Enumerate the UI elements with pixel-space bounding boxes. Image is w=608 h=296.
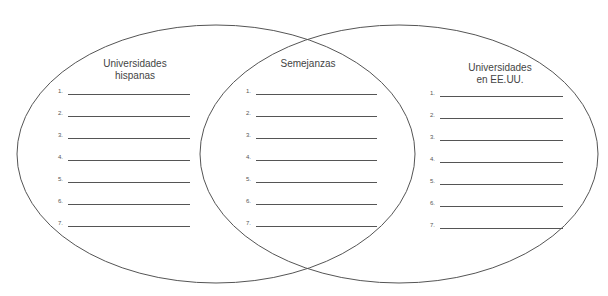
- left-blank-4[interactable]: 4.: [58, 151, 190, 161]
- right-blank-6[interactable]: 6.: [430, 197, 563, 207]
- venn-diagram: [0, 0, 608, 296]
- right-blank-4[interactable]: 4.: [430, 153, 563, 163]
- left-blank-6[interactable]: 6.: [58, 195, 190, 205]
- left-blank-2[interactable]: 2.: [58, 107, 190, 117]
- center-blank-7[interactable]: 7.: [246, 217, 377, 227]
- center-blank-1[interactable]: 1.: [246, 85, 377, 95]
- left-blank-1[interactable]: 1.: [58, 85, 190, 95]
- right-blank-3[interactable]: 3.: [430, 131, 563, 141]
- left-blank-7[interactable]: 7.: [58, 217, 190, 227]
- left-blank-3[interactable]: 3.: [58, 129, 190, 139]
- center-blank-2[interactable]: 2.: [246, 107, 377, 117]
- right-blank-7[interactable]: 7.: [430, 219, 563, 229]
- right-title: Universidades en EE.UU.: [450, 62, 550, 86]
- center-title: Semejanzas: [258, 58, 358, 70]
- left-title: Universidades hispanas: [85, 58, 185, 82]
- left-blank-5[interactable]: 5.: [58, 173, 190, 183]
- right-blank-2[interactable]: 2.: [430, 109, 563, 119]
- center-blank-3[interactable]: 3.: [246, 129, 377, 139]
- center-blank-4[interactable]: 4.: [246, 151, 377, 161]
- right-blank-1[interactable]: 1.: [430, 87, 563, 97]
- center-blank-6[interactable]: 6.: [246, 195, 377, 205]
- center-blank-5[interactable]: 5.: [246, 173, 377, 183]
- right-blank-5[interactable]: 5.: [430, 175, 563, 185]
